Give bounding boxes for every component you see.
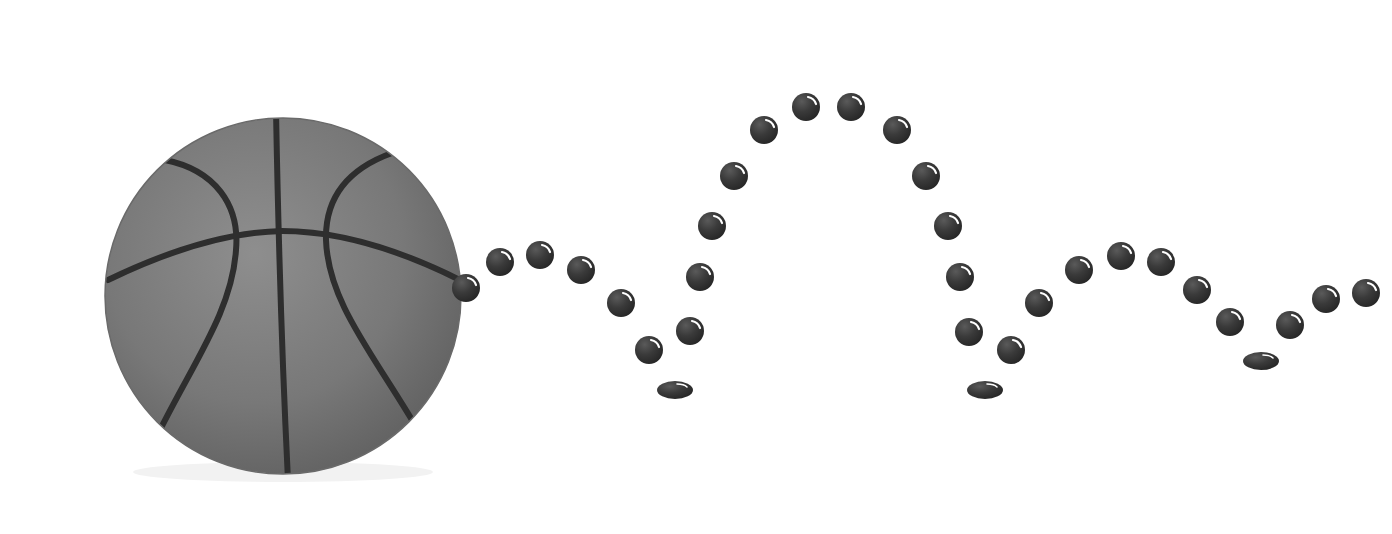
trajectory-dot (486, 248, 514, 276)
trajectory-dot (1276, 311, 1304, 339)
trajectory-dot (837, 93, 865, 121)
trajectory-dot (1107, 242, 1135, 270)
bounce-impact-dot (967, 381, 1003, 399)
trajectory-dot (946, 263, 974, 291)
bouncing-ball-illustration (0, 0, 1392, 534)
trajectory-dot (1216, 308, 1244, 336)
trajectory-dot (934, 212, 962, 240)
trajectory-dot (792, 93, 820, 121)
trajectory-dot (1312, 285, 1340, 313)
trajectory-dot (955, 318, 983, 346)
trajectory-dot (567, 256, 595, 284)
trajectory-dot (912, 162, 940, 190)
trajectory-dot (676, 317, 704, 345)
trajectory-dot (698, 212, 726, 240)
trajectory-dot (997, 336, 1025, 364)
trajectory-dot (686, 263, 714, 291)
trajectory-dot (1147, 248, 1175, 276)
trajectory-dot (1352, 279, 1380, 307)
trajectory-dot (750, 116, 778, 144)
trajectory-dot (452, 274, 480, 302)
trajectory-dot (1065, 256, 1093, 284)
trajectory-dot (1183, 276, 1211, 304)
trajectory-dot (883, 116, 911, 144)
trajectory-dot (635, 336, 663, 364)
trajectory-dot (1025, 289, 1053, 317)
bounce-trajectory (452, 93, 1380, 399)
trajectory-dot (720, 162, 748, 190)
bounce-impact-dot (657, 381, 693, 399)
bounce-impact-dot (1243, 352, 1279, 370)
trajectory-dot (526, 241, 554, 269)
basketball (105, 110, 461, 480)
trajectory-dot (607, 289, 635, 317)
